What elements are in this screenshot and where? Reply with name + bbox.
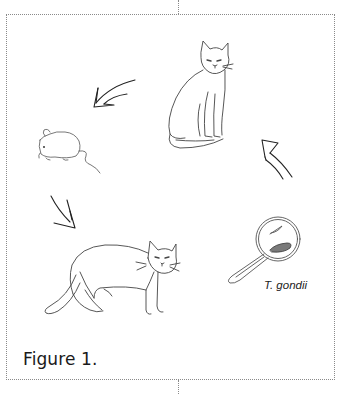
magnifier-icon [228,217,300,283]
figure-caption: Figure 1. [23,349,97,369]
standing-cat-icon [45,241,180,314]
arrow-down-right-icon [51,196,75,228]
sitting-cat-icon [169,41,233,148]
arrow-down-left-icon [94,80,135,107]
arrow-up-left-icon [262,140,292,179]
organism-label: T. gondii [264,279,307,291]
mouse-icon [39,129,100,173]
